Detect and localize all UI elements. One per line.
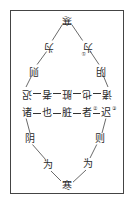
bottom-row-char-4: 者 [81,108,93,119]
bottom-left-upper-char: 阴 [24,134,36,145]
bottom-row-char-2: 也 [41,108,53,119]
top-left-upper-char: 为 [43,41,55,52]
top-note-1: ① [82,51,86,56]
top-row-char-1: 迟 [21,88,33,99]
bottom-row-char-3: 脏 [61,108,73,119]
top-row-char-4: 也 [81,88,93,99]
top-apex-char: 寒 [61,14,73,25]
bottom-note-2: ② [93,106,97,111]
bottom-note-3: ③ [112,106,116,111]
top-right-lower-char: 阴 [95,65,107,76]
bottom-row-char-1: 诸 [21,108,33,119]
top-row-char-5: 诸 [101,88,113,99]
top-row-char-2: 者 [41,88,53,99]
bottom-right-lower-char: 为 [82,159,94,170]
top-row-char-3: 脏 [61,88,73,99]
bottom-left-lower-char: 为 [42,160,54,171]
bottom-row-char-5: 迟 [100,108,112,119]
top-left-lower-char: 则 [28,65,40,76]
bottom-right-upper-char: 则 [94,134,106,145]
connector-lines [0,0,135,206]
bottom-apex-char: 寒 [61,181,73,192]
